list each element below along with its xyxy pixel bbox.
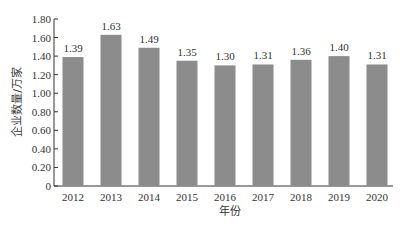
- bars: 1.391.631.491.351.301.311.361.401.31: [63, 20, 388, 186]
- x-tick-label: 2013: [100, 191, 123, 203]
- bar-2014: [139, 48, 160, 186]
- x-tick-label: 2015: [176, 191, 199, 203]
- x-tick-label: 2016: [214, 191, 237, 203]
- value-label: 1.30: [215, 50, 235, 62]
- y-tick-label: 1.40: [32, 50, 52, 62]
- x-tick-label: 2012: [62, 191, 84, 203]
- bar-2016: [215, 65, 236, 186]
- bar-2013: [101, 35, 122, 186]
- bar-2012: [63, 57, 84, 186]
- y-tick-label: 0.80: [32, 106, 52, 118]
- y-tick-label: 0.20: [32, 161, 52, 173]
- x-tick-label: 2020: [366, 191, 389, 203]
- bar-2017: [253, 64, 274, 186]
- bar-2018: [291, 60, 312, 186]
- bar-2015: [177, 61, 198, 186]
- value-label: 1.39: [63, 42, 83, 54]
- value-label: 1.31: [253, 49, 272, 61]
- x-tick-label: 2018: [290, 191, 313, 203]
- x-tick-label: 2014: [138, 191, 161, 203]
- y-tick-label: 1.60: [32, 32, 52, 44]
- x-axis: 201220132014201520162017201820192020: [54, 186, 393, 203]
- y-axis: 00.200.400.600.801.001.201.401.601.80: [32, 13, 58, 192]
- x-tick-label: 2019: [328, 191, 351, 203]
- y-tick-label: 0.60: [32, 124, 52, 136]
- y-tick-label: 1.20: [32, 69, 52, 81]
- value-label: 1.36: [291, 45, 311, 57]
- bar-2019: [329, 56, 350, 186]
- y-tick-label: 0.40: [32, 143, 52, 155]
- value-label: 1.63: [101, 20, 121, 32]
- value-label: 1.35: [177, 46, 197, 58]
- y-axis-title: 企业数量/万家: [10, 67, 24, 137]
- y-tick-label: 1.00: [32, 87, 52, 99]
- x-axis-title: 年份: [219, 204, 241, 218]
- bar-chart: 00.200.400.600.801.001.201.401.601.80 20…: [0, 0, 411, 225]
- x-tick-label: 2017: [252, 191, 275, 203]
- value-label: 1.40: [329, 41, 349, 53]
- value-label: 1.49: [139, 33, 159, 45]
- y-tick-label: 0: [46, 180, 52, 192]
- y-tick-label: 1.80: [32, 13, 52, 25]
- value-label: 1.31: [367, 49, 386, 61]
- bar-2020: [367, 64, 388, 186]
